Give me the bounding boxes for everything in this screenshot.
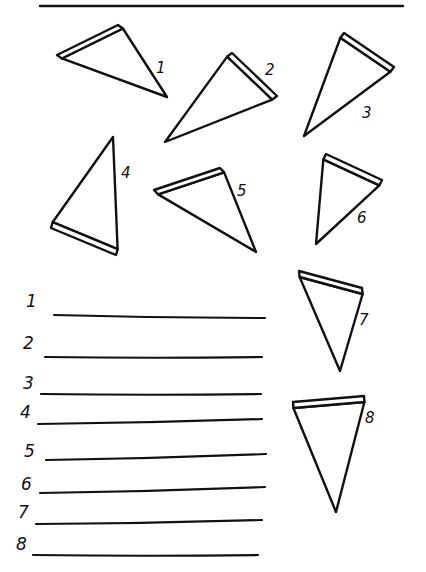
- answer-lines-group: 12345678: [16, 291, 266, 556]
- slice-number-label: 6: [357, 209, 367, 227]
- slice-body: [316, 159, 379, 244]
- pizza-slice-2: 2: [165, 53, 277, 142]
- slice-number-label: 4: [121, 164, 131, 182]
- answer-blank-line[interactable]: [41, 394, 261, 395]
- answer-row-6: 6: [21, 474, 265, 494]
- slice-number-label: 3: [362, 104, 372, 122]
- answer-number-label: 4: [20, 402, 31, 422]
- slice-body: [62, 28, 167, 97]
- answer-row-4: 4: [20, 402, 262, 424]
- slice-number-label: 5: [237, 182, 247, 200]
- answer-row-7: 7: [18, 502, 262, 524]
- answer-number-label: 7: [18, 502, 29, 522]
- answer-blank-line[interactable]: [46, 454, 266, 460]
- answer-row-2: 2: [23, 333, 262, 358]
- pizza-slice-7: 7: [299, 271, 369, 371]
- slice-body: [304, 38, 390, 136]
- answer-blank-line[interactable]: [40, 487, 265, 493]
- answer-blank-line[interactable]: [54, 315, 265, 318]
- answer-row-8: 8: [16, 534, 258, 556]
- slice-body: [293, 402, 364, 512]
- pizza-slice-6: 6: [316, 154, 382, 244]
- pizza-slice-4: 4: [51, 137, 131, 255]
- slice-number-label: 2: [265, 61, 275, 79]
- answer-blank-line[interactable]: [36, 520, 262, 524]
- answer-row-1: 1: [26, 291, 265, 318]
- answer-blank-line[interactable]: [38, 419, 262, 424]
- answer-row-3: 3: [23, 373, 261, 395]
- slice-body: [165, 57, 272, 142]
- pizza-slices-group: 12345678: [51, 25, 394, 512]
- answer-number-label: 8: [16, 534, 27, 554]
- answer-number-label: 2: [23, 333, 34, 353]
- pizza-slice-1: 1: [57, 25, 167, 97]
- pizza-slice-3: 3: [304, 33, 394, 136]
- pizza-slice-8: 8: [293, 396, 375, 512]
- answer-row-5: 5: [24, 441, 266, 461]
- answer-number-label: 5: [24, 441, 35, 461]
- pizza-slice-5: 5: [154, 168, 256, 252]
- answer-blank-line[interactable]: [33, 555, 258, 556]
- pizza-slice-worksheet: 12345678 12345678: [0, 0, 426, 572]
- answer-number-label: 6: [21, 474, 32, 494]
- slice-number-label: 8: [365, 409, 375, 427]
- answer-number-label: 3: [23, 373, 34, 393]
- slice-number-label: 7: [359, 311, 369, 329]
- answer-blank-line[interactable]: [45, 357, 262, 358]
- answer-number-label: 1: [26, 291, 37, 311]
- slice-number-label: 1: [156, 59, 166, 77]
